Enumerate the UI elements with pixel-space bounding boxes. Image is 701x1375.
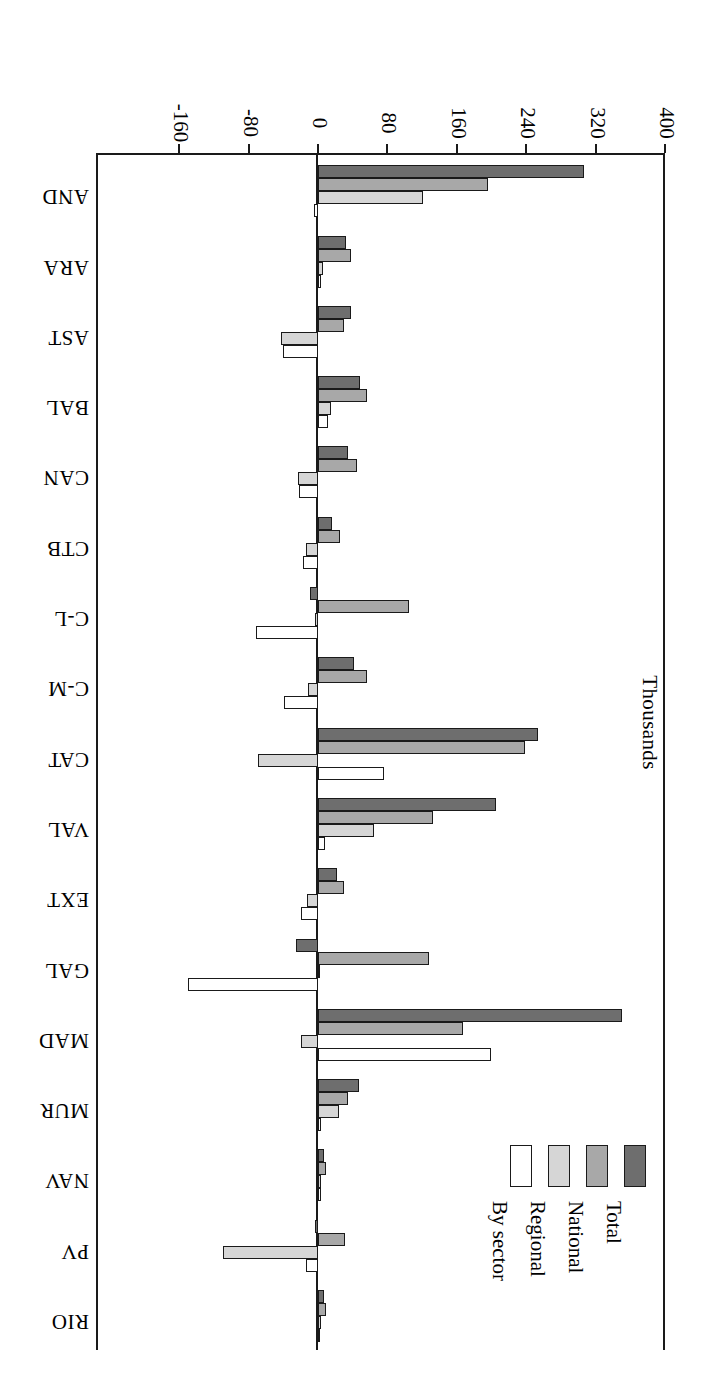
bar-national xyxy=(318,1092,348,1105)
legend-swatch-sector xyxy=(510,1145,532,1187)
category-label: MAD xyxy=(5,1028,89,1053)
category-label: RIO xyxy=(5,1309,89,1334)
category-label: CTB xyxy=(5,536,89,561)
legend-label: Regional xyxy=(525,1201,550,1277)
bar-group xyxy=(0,519,701,577)
bar-group xyxy=(0,589,701,647)
category-label: EXT xyxy=(5,887,89,912)
bar-group xyxy=(0,167,701,225)
bar-sector xyxy=(318,1048,491,1061)
bar-sector xyxy=(306,1259,318,1272)
axis-title: Thousands xyxy=(637,623,662,823)
bar-sector xyxy=(318,767,384,780)
category-label: CAT xyxy=(5,747,89,772)
bar-sector xyxy=(256,626,318,639)
legend-swatch-national xyxy=(586,1145,608,1187)
bar-regional xyxy=(301,1035,318,1048)
bar-total xyxy=(315,1220,318,1233)
bar-regional xyxy=(318,402,331,415)
bar-national xyxy=(318,1162,326,1175)
category-label: BAL xyxy=(5,395,89,420)
category-label: CAN xyxy=(5,465,89,490)
bar-sector xyxy=(318,1329,320,1342)
bar-total xyxy=(296,939,318,952)
bar-sector xyxy=(318,275,321,288)
bar-total xyxy=(318,868,337,881)
bar-sector xyxy=(188,978,318,991)
category-label: GAL xyxy=(5,958,89,983)
bar-national xyxy=(318,530,340,543)
bar-national xyxy=(318,459,357,472)
legend-label: National xyxy=(563,1201,588,1273)
bar-regional xyxy=(318,1316,321,1329)
bar-national xyxy=(318,881,344,894)
bar-sector xyxy=(299,485,318,498)
bar-total xyxy=(310,587,318,600)
bar-national xyxy=(318,389,367,402)
bar-national xyxy=(318,600,409,613)
bar-group xyxy=(0,659,701,717)
axis-tick-label: 160 xyxy=(446,88,471,158)
bar-national xyxy=(318,319,344,332)
bar-regional xyxy=(258,754,318,767)
bar-group xyxy=(0,941,701,999)
bar-group xyxy=(0,730,701,788)
bar-sector xyxy=(301,907,318,920)
bar-national xyxy=(318,249,351,262)
category-label: VAL xyxy=(5,817,89,842)
bar-total xyxy=(318,446,348,459)
bar-group xyxy=(0,238,701,296)
category-label: PV xyxy=(5,1239,89,1264)
bar-group xyxy=(0,870,701,928)
category-label: AST xyxy=(5,325,89,350)
category-label: MUR xyxy=(5,1098,89,1123)
category-label: ARA xyxy=(5,255,89,280)
bar-regional xyxy=(223,1246,318,1259)
bar-sector xyxy=(283,345,318,358)
bar-total xyxy=(318,1009,622,1022)
bar-regional xyxy=(307,894,318,907)
legend-swatch-total xyxy=(624,1145,646,1187)
axis-tick-label: 240 xyxy=(515,88,540,158)
bar-sector xyxy=(284,696,318,709)
chart-figure-rotated: Thousands 400320240160800-80-160 ANDARAA… xyxy=(0,0,701,1375)
axis-tick-label: 80 xyxy=(376,88,401,158)
legend: TotalNationalRegionalBy sector xyxy=(414,1133,646,1313)
bar-sector xyxy=(318,837,325,850)
bar-national xyxy=(318,811,433,824)
bar-total xyxy=(318,728,538,741)
bar-regional xyxy=(306,543,318,556)
bar-sector xyxy=(318,1118,321,1131)
legend-label: By sector xyxy=(487,1201,512,1281)
bar-sector xyxy=(318,1188,321,1201)
bar-sector xyxy=(314,204,318,217)
bar-total xyxy=(318,1149,324,1162)
category-label: AND xyxy=(5,184,89,209)
bar-group xyxy=(0,378,701,436)
bar-group xyxy=(0,1011,701,1069)
legend-label: Total xyxy=(601,1201,626,1244)
bar-regional xyxy=(318,262,323,275)
bar-sector xyxy=(318,415,328,428)
bar-group xyxy=(0,800,701,858)
bar-regional xyxy=(315,613,318,626)
bar-regional xyxy=(318,824,374,837)
bar-national xyxy=(318,178,488,191)
axis-tick-label: 0 xyxy=(307,88,332,158)
bar-regional xyxy=(308,683,318,696)
bar-regional xyxy=(318,1105,339,1118)
category-label: C-L xyxy=(5,606,89,631)
bar-national xyxy=(318,952,429,965)
bar-national xyxy=(318,741,525,754)
bar-national xyxy=(318,1022,463,1035)
bar-group xyxy=(0,1081,701,1139)
axis-tick-label: -160 xyxy=(168,88,193,158)
axis-tick-label: 400 xyxy=(654,88,679,158)
bar-regional xyxy=(318,1175,321,1188)
category-label: NAV xyxy=(5,1168,89,1193)
bar-regional xyxy=(298,472,318,485)
axis-tick-label: -80 xyxy=(238,88,263,158)
legend-swatch-regional xyxy=(548,1145,570,1187)
bar-total xyxy=(318,236,346,249)
bar-total xyxy=(318,517,332,530)
